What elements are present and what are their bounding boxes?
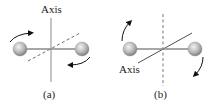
- diagonal-axis-line: [138, 33, 192, 63]
- rotation-arrow-icon: [195, 57, 203, 75]
- axis-label-a: Axis: [41, 3, 62, 15]
- ball-left: [123, 42, 137, 56]
- axis-label-b: Axis: [119, 63, 140, 75]
- caption-b: (b): [154, 88, 167, 101]
- ball-left: [13, 42, 27, 56]
- rotation-axes-diagram: Axis (a) Axis (b): [0, 0, 210, 104]
- panel-b: Axis (b): [119, 14, 203, 101]
- caption-a: (a): [43, 88, 56, 101]
- rotation-arrow-icon: [122, 22, 130, 41]
- ball-right: [75, 42, 89, 56]
- ball-right: [188, 42, 202, 56]
- dashed-reference-line: [28, 33, 80, 61]
- rotation-arrow-icon: [70, 57, 90, 65]
- rotation-arrow-icon: [10, 33, 31, 42]
- panel-a: Axis (a): [10, 3, 90, 101]
